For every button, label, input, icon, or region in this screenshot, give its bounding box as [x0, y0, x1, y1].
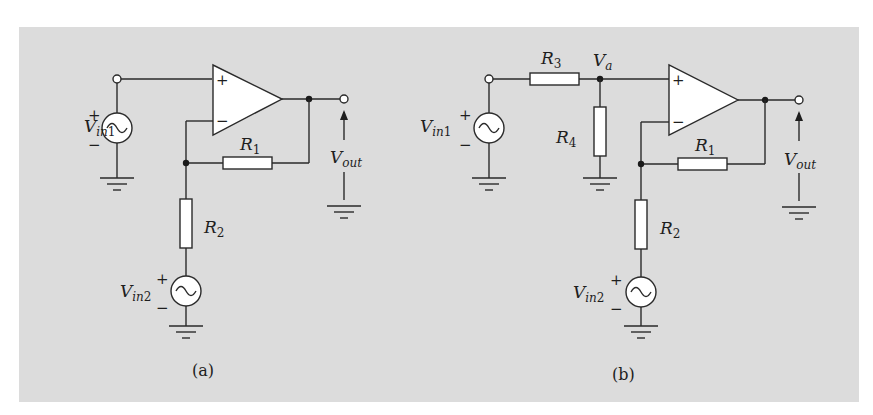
resistor-r1: [223, 157, 272, 169]
r1-label: R1: [239, 134, 260, 157]
svg-text:+: +: [610, 271, 623, 289]
circuit-b: R3 Va R4 Vin1 + − +: [420, 48, 816, 384]
r2-label: R2: [203, 217, 224, 240]
resistor-r1-b: [678, 158, 727, 170]
svg-text:+: +: [216, 71, 229, 89]
input-terminal-b: [485, 75, 493, 83]
output-terminal-b: [795, 96, 803, 104]
resistor-r4: [594, 107, 606, 156]
svg-text:+: +: [672, 71, 685, 89]
svg-text:−: −: [216, 112, 229, 130]
ac-source-vin2: [171, 276, 201, 306]
resistor-r2: [180, 199, 192, 248]
ground-icon: [624, 326, 658, 338]
svg-text:−: −: [459, 136, 472, 154]
ground-icon: [472, 178, 506, 190]
ac-source-vin1-b: [474, 113, 504, 143]
output-terminal: [340, 95, 348, 103]
svg-text:+: +: [156, 270, 169, 288]
vin2-label-b: Vin2: [573, 282, 605, 305]
vin1-label-b: Vin1: [420, 116, 452, 139]
vin1-minus: −: [88, 136, 101, 154]
svg-text:+: +: [459, 106, 472, 124]
ground-icon: [100, 178, 134, 190]
ac-source-vin2-b: [626, 277, 656, 307]
r2-label-b: R2: [659, 218, 680, 241]
vin1-plus: +: [88, 106, 101, 124]
r4-label: R4: [555, 127, 577, 150]
caption-a: (a): [192, 361, 214, 380]
caption-b: (b): [612, 365, 635, 384]
op-amp-b: + −: [669, 65, 738, 135]
circuit-a: Vin1 + − + − R1 R2 Vin2 + −: [84, 65, 362, 380]
op-amp-a: + −: [213, 65, 282, 135]
ground-icon: [583, 178, 617, 190]
input-terminal: [113, 75, 121, 83]
svg-text:−: −: [672, 113, 685, 131]
vin2-label: Vin2: [120, 281, 152, 304]
r1-label-b: R1: [694, 135, 715, 158]
resistor-r2-b: [635, 200, 647, 249]
ground-icon: [169, 326, 203, 338]
resistor-r3: [530, 73, 579, 85]
vout-label-b: Vout: [784, 149, 816, 172]
circuit-diagram: Vin1 + − + − R1 R2 Vin2 + −: [0, 0, 873, 415]
r3-label: R3: [540, 48, 561, 71]
va-label: Va: [593, 50, 612, 73]
svg-text:−: −: [156, 299, 169, 317]
vout-label: Vout: [330, 147, 362, 170]
svg-text:−: −: [610, 300, 623, 318]
